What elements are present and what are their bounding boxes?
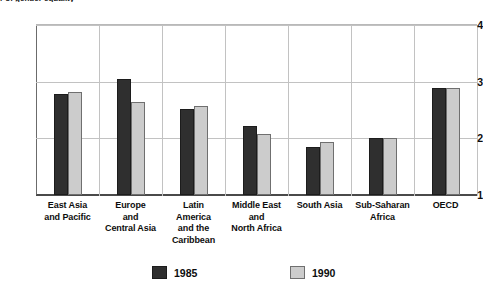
bar-1990	[131, 102, 145, 196]
x-label-line: East Asia	[36, 200, 99, 212]
x-label-3: Middle EastandNorth Africa	[225, 200, 288, 235]
x-label-1: EuropeandCentral Asia	[99, 200, 162, 235]
x-label-line: Sub-Saharan	[351, 200, 414, 212]
legend-swatch-icon	[290, 266, 305, 279]
x-label-line: OECD	[414, 200, 477, 212]
image-bottom-edge	[0, 292, 483, 293]
vertical-gridline-7	[477, 25, 478, 196]
legend-item-1985: 1985	[152, 266, 197, 279]
bar-chart: r of gender equality 4321 East Asiaand P…	[0, 0, 483, 302]
bar-1985	[54, 94, 68, 195]
x-label-line: Middle East	[225, 200, 288, 212]
x-label-0: East Asiaand Pacific	[36, 200, 99, 223]
x-label-line: Caribbean	[162, 235, 225, 247]
x-label-line: Africa	[351, 212, 414, 224]
bar-1985	[117, 79, 131, 195]
bar-group	[288, 25, 351, 195]
bar-1985	[180, 109, 194, 195]
chart-legend: 19851990	[0, 266, 483, 288]
bar-group	[36, 25, 99, 195]
x-label-line: Latin	[162, 200, 225, 212]
x-label-line: South Asia	[288, 200, 351, 212]
x-label-4: South Asia	[288, 200, 351, 212]
y-axis	[0, 0, 33, 302]
bar-1985	[243, 126, 257, 195]
bar-1985	[369, 138, 383, 195]
bar-1985	[306, 147, 320, 195]
x-label-5: Sub-SaharanAfrica	[351, 200, 414, 223]
bar-group	[99, 25, 162, 195]
x-label-2: LatinAmericaand theCaribbean	[162, 200, 225, 246]
bar-group	[225, 25, 288, 195]
legend-label: 1985	[174, 267, 197, 279]
x-label-line: and Pacific	[36, 212, 99, 224]
bar-1990	[68, 92, 82, 195]
x-label-line: North Africa	[225, 223, 288, 235]
bar-1985	[432, 88, 446, 195]
bar-group	[351, 25, 414, 195]
x-label-line: America	[162, 212, 225, 224]
bar-1990	[383, 138, 397, 195]
x-label-6: OECD	[414, 200, 477, 212]
bar-1990	[257, 134, 271, 195]
x-label-line: Central Asia	[99, 223, 162, 235]
legend-item-1990: 1990	[290, 266, 335, 279]
bar-1990	[446, 88, 460, 195]
gridline-y-1	[36, 195, 477, 196]
x-label-line: and	[225, 212, 288, 224]
x-axis-category-labels: East Asiaand PacificEuropeandCentral Asi…	[36, 200, 477, 256]
x-label-line: and the	[162, 223, 225, 235]
x-label-line: Europe	[99, 200, 162, 212]
legend-swatch-icon	[152, 266, 167, 279]
x-label-line: and	[99, 212, 162, 224]
bar-1990	[194, 106, 208, 195]
bar-group	[162, 25, 225, 195]
bar-1990	[320, 142, 334, 195]
bar-group	[414, 25, 477, 195]
legend-label: 1990	[312, 267, 335, 279]
